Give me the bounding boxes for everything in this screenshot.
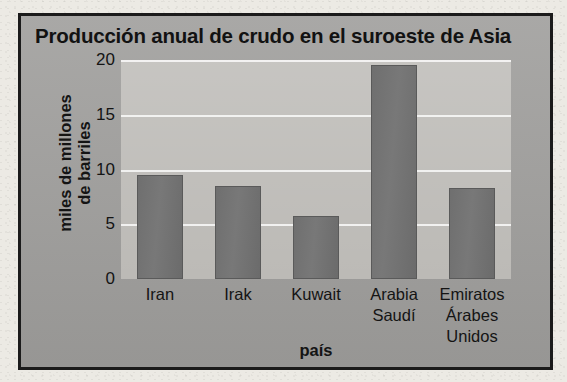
bar-irak[interactable] bbox=[215, 186, 261, 279]
figure-page: Producción anual de crudo en el suroeste… bbox=[0, 0, 567, 382]
y-tick-0: 0 bbox=[87, 269, 115, 289]
bar-series bbox=[121, 60, 511, 279]
chart-title: Producción anual de crudo en el suroeste… bbox=[35, 24, 540, 48]
x-label-irak: Irak bbox=[199, 284, 277, 347]
bar-slot-kuwait bbox=[277, 60, 355, 279]
x-label-emiratos-line-2: Árabes bbox=[433, 305, 511, 326]
x-label-arabia-saudi-line-2: Saudí bbox=[355, 305, 433, 326]
y-axis-title-line-1: miles de millones bbox=[56, 63, 75, 263]
bar-slot-irak bbox=[199, 60, 277, 279]
plot-area bbox=[121, 60, 511, 279]
bar-arabia-saudi[interactable] bbox=[371, 65, 417, 279]
x-label-iran-line-1: Iran bbox=[121, 284, 199, 305]
y-tick-10: 10 bbox=[87, 160, 115, 180]
bar-slot-arabia-saudi bbox=[355, 60, 433, 279]
y-tick-15: 15 bbox=[87, 105, 115, 125]
x-label-arabia-saudi: Arabia Saudí bbox=[355, 284, 433, 347]
y-tick-5: 5 bbox=[87, 214, 115, 234]
x-label-emiratos-line-1: Emiratos bbox=[433, 284, 511, 305]
y-axis-tick-labels: 20 15 10 5 0 bbox=[83, 60, 115, 279]
y-tick-20: 20 bbox=[87, 50, 115, 70]
x-label-kuwait: Kuwait bbox=[277, 284, 355, 347]
x-label-irak-line-1: Irak bbox=[199, 284, 277, 305]
bar-iran[interactable] bbox=[137, 175, 183, 279]
x-axis-category-labels: Iran Irak Kuwait Arabia Saudí Emiratos Á… bbox=[121, 284, 511, 347]
bar-emiratos-arabes-unidos[interactable] bbox=[449, 188, 495, 279]
x-label-emiratos-arabes-unidos: Emiratos Árabes Unidos bbox=[433, 284, 511, 347]
bar-kuwait[interactable] bbox=[293, 216, 339, 280]
x-axis-title: país bbox=[121, 341, 511, 360]
x-label-iran: Iran bbox=[121, 284, 199, 347]
bar-slot-iran bbox=[121, 60, 199, 279]
x-label-arabia-saudi-line-1: Arabia bbox=[355, 284, 433, 305]
x-label-kuwait-line-1: Kuwait bbox=[277, 284, 355, 305]
bar-slot-emiratos-arabes-unidos bbox=[433, 60, 511, 279]
figure-frame: Producción anual de crudo en el suroeste… bbox=[18, 13, 553, 370]
